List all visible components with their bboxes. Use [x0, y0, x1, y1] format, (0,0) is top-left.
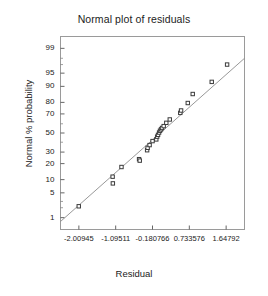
x-tick-label: -1.09511 — [101, 235, 130, 243]
data-point — [168, 118, 171, 121]
data-point — [210, 80, 213, 83]
y-tick-label: 30 — [29, 148, 55, 156]
y-tick-label: 70 — [29, 110, 55, 118]
normal-probability-plot-figure: Normal plot of residuals Normal % probab… — [0, 0, 268, 296]
y-tick-label: 50 — [29, 129, 55, 137]
data-point — [138, 159, 141, 162]
data-point — [151, 139, 154, 142]
data-point — [165, 121, 168, 124]
data-point — [77, 205, 80, 208]
x-tick-label: 1.64792 — [213, 235, 240, 243]
y-tick-label: 90 — [29, 82, 55, 90]
y-tick-label: 95 — [29, 69, 55, 77]
y-tick-label: 5 — [29, 189, 55, 197]
data-point — [148, 143, 151, 146]
y-tick-label: 1 — [29, 214, 55, 222]
y-tick-label: 20 — [29, 160, 55, 168]
y-tick-label: 99 — [29, 44, 55, 52]
data-point — [179, 109, 182, 112]
data-point — [186, 101, 189, 104]
data-point — [111, 182, 114, 185]
data-point — [111, 175, 114, 178]
x-tick-label: -2.00945 — [64, 235, 94, 243]
x-tick-label: 0.733576 — [174, 235, 205, 243]
y-tick-label: 80 — [29, 98, 55, 106]
y-tick-label: 10 — [29, 176, 55, 184]
x-tick-label: -0.180766 — [136, 235, 170, 243]
plot-frame — [61, 37, 245, 230]
data-point — [225, 63, 228, 66]
data-point — [191, 92, 194, 95]
data-point — [120, 165, 123, 168]
